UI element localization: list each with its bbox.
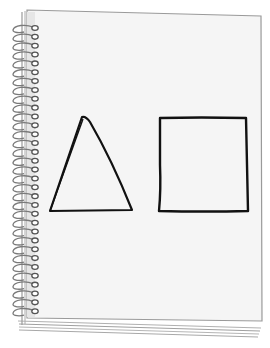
spiral-hole xyxy=(32,79,38,84)
spiral-hole xyxy=(32,291,38,296)
spiral-hole xyxy=(32,220,38,225)
notebook-page xyxy=(27,10,262,321)
spiral-hole xyxy=(32,150,38,155)
spiral-hole xyxy=(32,61,38,66)
spiral-hole xyxy=(32,282,38,287)
spiral-hole xyxy=(32,114,38,119)
spiral-hole xyxy=(32,256,38,261)
spiral-hole xyxy=(32,123,38,128)
spiral-hole xyxy=(32,194,38,199)
spiral-hole xyxy=(32,300,38,305)
page-stack xyxy=(18,321,261,337)
spiral-hole xyxy=(32,34,38,39)
spiral-hole xyxy=(32,176,38,181)
notebook-illustration xyxy=(0,0,270,348)
spiral-hole xyxy=(32,105,38,110)
spiral-hole xyxy=(32,96,38,101)
spiral-hole xyxy=(32,265,38,270)
spiral-hole xyxy=(32,229,38,234)
spiral-hole xyxy=(32,52,38,57)
spiral-hole xyxy=(32,26,38,31)
spiral-hole xyxy=(32,141,38,146)
spiral-hole xyxy=(32,203,38,208)
spiral-hole xyxy=(32,88,38,93)
spiral-hole xyxy=(32,158,38,163)
spiral-hole xyxy=(32,43,38,48)
notebook-svg xyxy=(0,0,270,348)
spiral-hole xyxy=(32,132,38,137)
spiral-hole xyxy=(32,185,38,190)
page-gutter xyxy=(27,12,35,317)
spiral-hole xyxy=(32,167,38,172)
spiral-hole xyxy=(32,273,38,278)
spiral-hole xyxy=(32,247,38,252)
spiral-hole xyxy=(32,70,38,75)
spiral-hole xyxy=(32,238,38,243)
spiral-hole xyxy=(32,211,38,216)
spiral-hole xyxy=(32,309,38,314)
